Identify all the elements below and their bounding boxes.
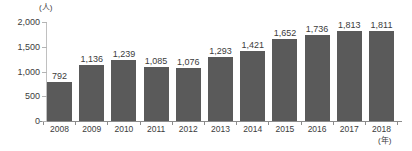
bar-value-label: 1,076 xyxy=(169,57,208,67)
bar-group: 1,652 xyxy=(272,22,297,121)
x-axis-tick xyxy=(75,122,76,125)
bar xyxy=(79,65,104,121)
x-axis-tick xyxy=(365,122,366,125)
x-axis-tick xyxy=(43,122,44,125)
bar xyxy=(144,67,169,121)
x-axis-tick xyxy=(333,122,334,125)
bar-group: 1,076 xyxy=(176,22,201,121)
y-axis-tick-label: 0 xyxy=(4,117,40,126)
bar xyxy=(272,39,297,121)
bar-group: 1,736 xyxy=(305,22,330,121)
bar xyxy=(47,82,72,121)
y-axis-tick-label: 1,000 xyxy=(4,68,40,77)
x-axis-tick xyxy=(204,122,205,125)
x-axis-line xyxy=(40,121,402,122)
x-axis-tick-label: 2018 xyxy=(362,124,401,134)
bar-value-label: 1,811 xyxy=(362,20,401,30)
x-axis-tick xyxy=(107,122,108,125)
x-axis-tick xyxy=(301,122,302,125)
bar-group: 1,085 xyxy=(144,22,169,121)
bar xyxy=(208,57,233,121)
bar-group: 1,239 xyxy=(111,22,136,121)
y-axis-tick-label: 500 xyxy=(4,92,40,101)
bar-value-label: 792 xyxy=(40,71,79,81)
bar-group: 1,813 xyxy=(337,22,362,121)
bar xyxy=(111,60,136,121)
y-axis-tick-label: 1,500 xyxy=(4,43,40,52)
x-axis-tick xyxy=(236,122,237,125)
x-axis-unit-label: (年) xyxy=(378,136,391,146)
bar-group: 1,293 xyxy=(208,22,233,121)
bar-group: 1,136 xyxy=(79,22,104,121)
bar-group: 1,421 xyxy=(240,22,265,121)
bar-value-label: 1,421 xyxy=(233,40,272,50)
bar xyxy=(337,31,362,121)
bar xyxy=(176,68,201,121)
bar xyxy=(369,31,394,121)
bar xyxy=(240,51,265,121)
x-axis-tick xyxy=(268,122,269,125)
bar xyxy=(305,35,330,121)
x-axis-tick xyxy=(172,122,173,125)
x-axis-tick xyxy=(140,122,141,125)
x-axis-tick xyxy=(397,122,398,125)
bar-group: 1,811 xyxy=(369,22,394,121)
bar-chart: (人) 05001,0001,5002,000 7921,1361,2391,0… xyxy=(0,0,412,151)
y-axis-tick-label: 2,000 xyxy=(4,18,40,27)
y-axis-unit-label: (人) xyxy=(39,3,52,13)
bar-group: 792 xyxy=(47,22,72,121)
